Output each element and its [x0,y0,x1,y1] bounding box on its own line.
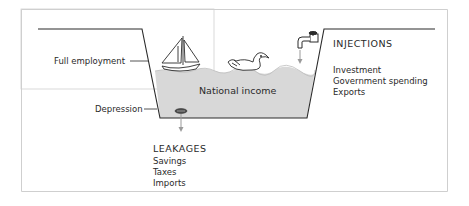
injections-item: Investment [333,65,381,76]
injections-item: Government spending [333,76,428,87]
national-income-label: National income [199,85,276,96]
leakages-item: Taxes [153,167,176,178]
leakages-item: Imports [153,178,186,189]
tub-svg [0,0,469,206]
leakages-item: Savings [153,156,186,167]
drain-icon [175,109,187,114]
duck-icon [228,53,269,71]
injections-title: INJECTIONS [333,38,393,49]
tap-icon [298,32,318,49]
full-employment-label: Full employment [54,56,125,67]
injection-arrow [298,50,303,64]
injections-item: Exports [333,87,365,98]
sailboat-icon [162,36,200,71]
depression-label: Depression [95,104,143,115]
leakages-title: LEAKAGES [153,143,207,154]
